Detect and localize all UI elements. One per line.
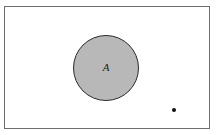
- element-point: [172, 108, 176, 112]
- set-a-label: A: [100, 61, 112, 73]
